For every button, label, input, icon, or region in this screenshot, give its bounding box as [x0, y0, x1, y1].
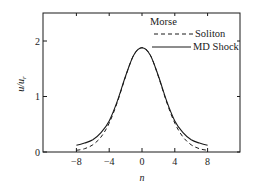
y-tick-labels: 012: [35, 36, 40, 158]
soliton-curve: [76, 48, 207, 151]
y-tick-label: 2: [35, 36, 40, 47]
legend-md-label: MD Shock: [193, 41, 240, 52]
y-axis-label-subscript: r: [20, 76, 28, 79]
y-tick-label: 1: [35, 91, 40, 102]
legend: Morse Soliton MD Shock: [150, 16, 240, 52]
y-axis-label-main: u/u: [15, 79, 26, 92]
line-chart: −8−4048 012 n u/ur Morse Soliton MD Shoc…: [0, 0, 253, 190]
y-tick-label: 0: [35, 147, 40, 158]
legend-title: Morse: [150, 16, 177, 27]
x-tick-labels: −8−4048: [71, 156, 210, 167]
legend-soliton-label: Soliton: [195, 28, 226, 39]
x-axis-label: n: [140, 172, 145, 183]
y-axis-label: u/ur: [15, 76, 28, 92]
x-tick-label: 0: [140, 156, 145, 167]
x-tick-label: −4: [104, 156, 115, 167]
x-tick-label: 4: [172, 156, 177, 167]
md-shock-curve: [76, 48, 207, 146]
svg-text:u/ur: u/ur: [15, 76, 28, 92]
x-tick-label: 8: [205, 156, 210, 167]
x-tick-label: −8: [71, 156, 82, 167]
